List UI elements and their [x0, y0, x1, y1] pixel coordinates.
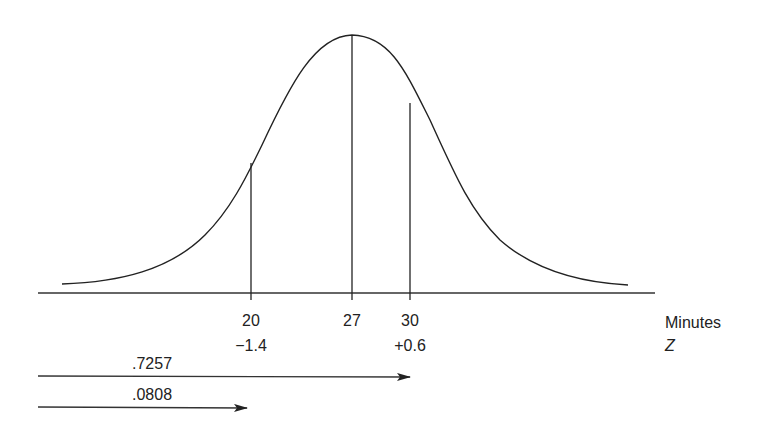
tick-label-30: 30 [401, 312, 419, 330]
tick-label-20: 20 [242, 312, 260, 330]
arrow-label-7257: .7257 [132, 355, 172, 373]
normal-curve-diagram [0, 0, 759, 439]
bell-curve [62, 35, 628, 285]
z-label-30: +0.6 [394, 337, 426, 355]
z-label-20: −1.4 [235, 337, 267, 355]
tick-label-27: 27 [343, 312, 361, 330]
arrow-0808 [38, 407, 247, 408]
arrow-7257 [38, 376, 410, 377]
axis-label-z: Z [665, 337, 675, 355]
axis-label-minutes: Minutes [665, 314, 721, 332]
arrow-label-0808: .0808 [132, 386, 172, 404]
